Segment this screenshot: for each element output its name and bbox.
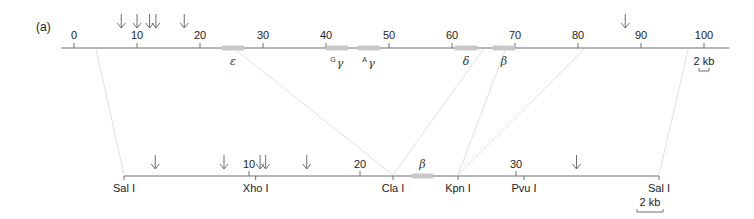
connector-line <box>393 49 484 175</box>
top-tick-label: 100 <box>695 29 713 41</box>
connector-line <box>96 49 124 175</box>
gene-box-delta <box>455 46 477 51</box>
bottom-tick-label: 20 <box>354 158 366 170</box>
restriction-site-label: Cla I <box>382 182 405 194</box>
top-tick-label: 50 <box>383 29 395 41</box>
top-tick-label: 40 <box>320 29 332 41</box>
top-tick-label: 0 <box>71 29 77 41</box>
top-tick-label: 70 <box>509 29 521 41</box>
bottom-tick-label: 10 <box>243 158 255 170</box>
gene-label-epsilon: ε <box>230 55 236 68</box>
connector-line <box>659 49 688 175</box>
top-tick-label: 60 <box>446 29 458 41</box>
top-map: 0102030405060708090100εGγAγδβ2 kb <box>61 14 729 71</box>
bottom-tick-label: 30 <box>510 158 522 170</box>
gene-box-A-gamma <box>358 46 380 51</box>
top-tick-label: 30 <box>257 29 269 41</box>
gene-box-bottom-beta <box>412 174 433 179</box>
top-scale-bar <box>699 68 709 71</box>
gene-superscript-G-gamma: G <box>330 56 335 63</box>
top-tick-label: 10 <box>131 29 143 41</box>
bottom-scale-bar <box>637 209 663 212</box>
top-scale-bar-label: 2 kb <box>694 55 715 67</box>
restriction-site-label: Xho I <box>243 182 269 194</box>
connector-line <box>458 49 584 175</box>
restriction-site-label: Sal I <box>113 182 135 194</box>
gene-box-G-gamma <box>326 46 348 51</box>
gene-label-G-gamma: γ <box>337 57 344 70</box>
gene-box-beta <box>493 46 515 51</box>
restriction-site-label: Sal I <box>648 182 670 194</box>
gene-label-bottom-beta: β <box>418 158 425 171</box>
bottom-map: 102030Sal IXho ICla IKpn IPvu ISal Iβ2 k… <box>113 155 670 212</box>
gene-label-beta: β <box>500 55 507 68</box>
top-tick-label: 80 <box>572 29 584 41</box>
restriction-site-label: Pvu I <box>511 182 536 194</box>
top-tick-label: 90 <box>635 29 647 41</box>
connector-lines <box>96 49 688 175</box>
gene-label-delta: δ <box>463 55 470 68</box>
restriction-site-label: Kpn I <box>445 182 471 194</box>
bottom-scale-bar-label: 2 kb <box>640 196 661 208</box>
gene-box-epsilon <box>222 46 244 51</box>
gene-superscript-A-gamma: A <box>362 56 367 63</box>
gene-label-A-gamma: γ <box>368 57 375 70</box>
top-tick-label: 20 <box>194 29 206 41</box>
globin-gene-map-diagram: 0102030405060708090100εGγAγδβ2 kb 102030… <box>0 0 754 219</box>
